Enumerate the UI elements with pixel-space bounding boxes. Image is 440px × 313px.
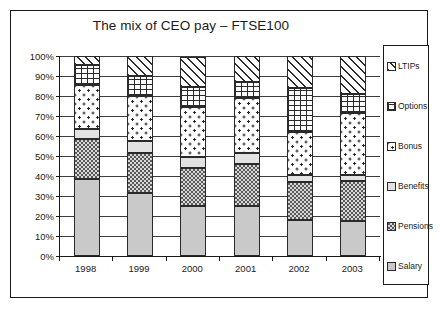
- bar-segment-bonus-2003[interactable]: [340, 113, 366, 175]
- bar-segment-pensions-2002[interactable]: [287, 182, 313, 220]
- x-axis-label-2002: 2002: [288, 263, 309, 274]
- bar-segment-salary-2003[interactable]: [340, 221, 366, 256]
- bar-segment-options-2001[interactable]: [234, 82, 260, 98]
- bar-segment-options-2003[interactable]: [340, 94, 366, 113]
- y-axis-label: 10%: [35, 231, 54, 242]
- y-axis-label: 40%: [35, 171, 54, 182]
- plot-area: 0%10%20%30%40%50%60%70%80%90%100%: [59, 56, 379, 256]
- legend-swatch-salary-icon: [387, 262, 396, 271]
- y-axis-tick: [56, 136, 60, 137]
- bar-segment-pensions-1998[interactable]: [74, 139, 100, 179]
- x-axis-label-2001: 2001: [235, 263, 256, 274]
- y-axis-label: 80%: [35, 91, 54, 102]
- y-axis-tick: [56, 216, 60, 217]
- y-axis-label: 50%: [35, 151, 54, 162]
- y-axis-tick: [56, 176, 60, 177]
- gridline: [60, 196, 380, 197]
- bar-segment-benefits-2001[interactable]: [234, 153, 260, 164]
- bar-segment-benefits-1999[interactable]: [127, 141, 153, 153]
- bar-1998[interactable]: [74, 56, 100, 256]
- bar-segment-ltips-1998[interactable]: [74, 56, 100, 65]
- bar-segment-pensions-2000[interactable]: [180, 168, 206, 206]
- y-axis-label: 90%: [35, 71, 54, 82]
- bar-segment-benefits-2000[interactable]: [180, 157, 206, 168]
- y-axis-tick: [56, 116, 60, 117]
- bar-segment-salary-1998[interactable]: [74, 179, 100, 256]
- y-axis-tick: [56, 96, 60, 97]
- y-axis-label: 70%: [35, 111, 54, 122]
- bar-1999[interactable]: [127, 56, 153, 256]
- bar-segment-salary-2002[interactable]: [287, 220, 313, 256]
- legend-label: Pensions: [398, 221, 433, 231]
- bar-segment-ltips-2001[interactable]: [234, 56, 260, 82]
- bar-segment-pensions-2003[interactable]: [340, 181, 366, 221]
- gridline: [60, 136, 380, 137]
- bar-segment-ltips-2002[interactable]: [287, 56, 313, 88]
- bar-segment-benefits-2003[interactable]: [340, 175, 366, 181]
- legend-item-options[interactable]: Options: [387, 101, 427, 111]
- legend-swatch-bonus-icon: [387, 142, 396, 151]
- bar-segment-bonus-2002[interactable]: [287, 132, 313, 175]
- chart-title: The mix of CEO pay – FTSE100: [11, 18, 371, 33]
- bar-segment-salary-2001[interactable]: [234, 206, 260, 256]
- legend-item-ltips[interactable]: LTIPs: [387, 61, 420, 71]
- legend-item-salary[interactable]: Salary: [387, 261, 422, 271]
- bar-segment-ltips-2003[interactable]: [340, 56, 366, 94]
- x-axis-label-2000: 2000: [182, 263, 203, 274]
- legend-label: Benefits: [398, 181, 429, 191]
- bar-2001[interactable]: [234, 56, 260, 256]
- y-axis-label: 100%: [30, 51, 54, 62]
- gridline: [60, 216, 380, 217]
- legend-label: Salary: [398, 261, 422, 271]
- x-axis-tick: [166, 256, 167, 261]
- legend-item-benefits[interactable]: Benefits: [387, 181, 429, 191]
- bar-segment-pensions-1999[interactable]: [127, 153, 153, 193]
- bar-segment-options-1999[interactable]: [127, 76, 153, 96]
- bar-segment-ltips-2000[interactable]: [180, 57, 206, 87]
- legend-label: Bonus: [398, 141, 422, 151]
- legend-item-bonus[interactable]: Bonus: [387, 141, 422, 151]
- x-axis-tick: [112, 256, 113, 261]
- y-axis-label: 60%: [35, 131, 54, 142]
- bar-segment-benefits-1998[interactable]: [74, 129, 100, 139]
- bar-segment-salary-2000[interactable]: [180, 206, 206, 256]
- y-axis-label: 30%: [35, 191, 54, 202]
- gridline: [60, 56, 380, 57]
- bar-segment-bonus-1999[interactable]: [127, 96, 153, 141]
- y-axis-tick: [56, 236, 60, 237]
- bar-segment-bonus-1998[interactable]: [74, 85, 100, 129]
- bar-segment-bonus-2001[interactable]: [234, 98, 260, 153]
- y-axis-tick: [56, 156, 60, 157]
- x-axis-line: [59, 256, 381, 257]
- bar-segment-benefits-2002[interactable]: [287, 175, 313, 182]
- x-axis-tick: [272, 256, 273, 261]
- bar-segment-pensions-2001[interactable]: [234, 164, 260, 206]
- gridline: [60, 156, 380, 157]
- y-axis-label: 0%: [40, 251, 54, 262]
- bar-segment-bonus-2000[interactable]: [180, 107, 206, 157]
- legend-swatch-pensions-icon: [387, 222, 396, 231]
- y-axis-tick: [56, 196, 60, 197]
- bar-2002[interactable]: [287, 56, 313, 256]
- x-axis-tick: [59, 256, 60, 261]
- x-axis-label-1998: 1998: [75, 263, 96, 274]
- gridline: [60, 236, 380, 237]
- bar-segment-salary-1999[interactable]: [127, 193, 153, 256]
- bar-segment-options-2000[interactable]: [180, 87, 206, 107]
- bar-segment-options-1998[interactable]: [74, 65, 100, 85]
- legend-swatch-ltips-icon: [387, 62, 396, 71]
- legend-swatch-benefits-icon: [387, 182, 396, 191]
- bar-2003[interactable]: [340, 56, 366, 256]
- bar-2000[interactable]: [180, 56, 206, 256]
- x-axis-tick: [219, 256, 220, 261]
- legend-item-pensions[interactable]: Pensions: [387, 221, 433, 231]
- x-axis-tick: [326, 256, 327, 261]
- chart-legend: LTIPsOptionsBonusBenefitsPensionsSalary: [383, 45, 429, 285]
- bar-segment-options-2002[interactable]: [287, 88, 313, 132]
- gridline: [60, 76, 380, 77]
- gridline: [60, 176, 380, 177]
- y-axis-label: 20%: [35, 211, 54, 222]
- y-axis-tick: [56, 56, 60, 57]
- y-axis-tick: [56, 76, 60, 77]
- bar-segment-ltips-1999[interactable]: [127, 56, 153, 76]
